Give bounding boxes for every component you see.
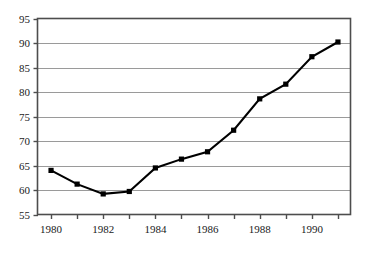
x-axis-tick-label: 1990 [301, 224, 323, 235]
y-axis-tick-label: 80 [0, 87, 30, 98]
data-point-marker [205, 149, 210, 154]
data-point-marker [179, 157, 184, 162]
y-axis-tick-label: 90 [0, 38, 30, 49]
y-axis-tick-label: 75 [0, 111, 30, 122]
x-axis-tick-label: 1982 [92, 224, 114, 235]
data-point-marker [75, 182, 80, 187]
data-point-marker [101, 191, 106, 196]
y-axis-tick-label: 55 [0, 209, 30, 220]
data-point-marker [283, 82, 288, 87]
x-axis-tick-label: 1986 [197, 224, 219, 235]
y-axis-tick-label: 65 [0, 160, 30, 171]
y-axis-tick-label: 95 [0, 13, 30, 24]
data-point-marker [309, 54, 314, 59]
x-axis-tick-label: 1980 [40, 224, 62, 235]
data-point-marker [127, 189, 132, 194]
y-axis-tick-label: 60 [0, 185, 30, 196]
data-point-marker [153, 165, 158, 170]
line-chart: 556065707580859095 198019821984198619881… [0, 0, 371, 253]
plot-area [0, 0, 371, 253]
x-axis-tick-label: 1984 [144, 224, 166, 235]
data-point-marker [335, 39, 340, 44]
y-axis-tick-label: 70 [0, 136, 30, 147]
data-point-marker [231, 128, 236, 133]
data-point-marker [257, 96, 262, 101]
plot-border [38, 19, 351, 215]
x-axis-tick-label: 1988 [249, 224, 271, 235]
y-axis-tick-label: 85 [0, 62, 30, 73]
data-point-marker [48, 168, 53, 173]
